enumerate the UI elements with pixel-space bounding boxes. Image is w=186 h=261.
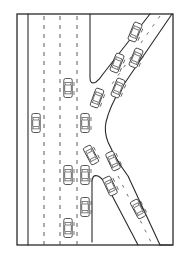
car-downramp-2 (102, 175, 119, 197)
car-downramp-1 (105, 150, 122, 172)
car-merge-1 (90, 88, 106, 109)
car-main-5 (81, 166, 91, 185)
car-downramp-3 (130, 198, 148, 220)
car-main-7 (64, 219, 74, 238)
car-main-1 (64, 79, 74, 98)
car-upramp-4 (111, 78, 128, 99)
highway-diagram (0, 0, 186, 261)
car-main-6 (81, 198, 91, 217)
car-upramp-3 (129, 48, 146, 69)
car-upramp-2 (110, 53, 127, 74)
car-main-2 (32, 114, 40, 133)
car-upramp-1 (128, 22, 145, 43)
car-main-3 (81, 114, 91, 133)
car-merge-2 (83, 144, 101, 166)
car-main-4 (64, 166, 74, 185)
lane-dividers (44, 16, 77, 245)
